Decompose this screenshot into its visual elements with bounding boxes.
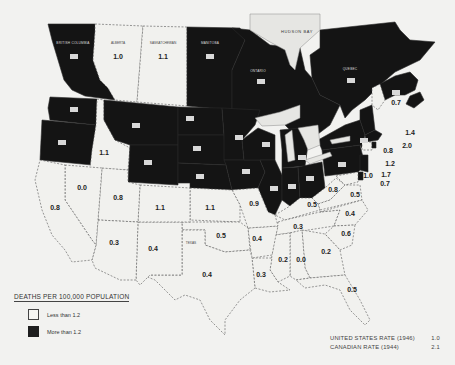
- label-saskatchewan-value: 1.1: [158, 53, 168, 60]
- label-maryland-value: 0.7: [380, 180, 390, 187]
- rate-value-canada: 2.1: [431, 344, 440, 350]
- label-bc-name: BRITISH COLUMBIA: [56, 41, 90, 45]
- badge-wisconsin: [262, 142, 270, 147]
- region-north-dakota[interactable]: [178, 107, 224, 135]
- national-rates: UNITED STATES RATE (1946) 1.0 CANADIAN R…: [330, 335, 440, 353]
- label-texas-value: 0.4: [202, 271, 212, 278]
- label-kansas-value: 1.1: [205, 204, 215, 211]
- badge-bc: [70, 54, 78, 59]
- badge-ontario: [257, 79, 265, 84]
- badge-north-dakota: [186, 116, 194, 121]
- label-florida-value: 0.5: [347, 286, 357, 293]
- label-texas-name: TEXAS: [186, 241, 196, 245]
- hudson-bay-label: HUDSON BAY: [281, 29, 313, 34]
- badge-iowa: [242, 169, 250, 174]
- label-arizona-value: 0.3: [109, 239, 119, 246]
- region-kansas[interactable]: [190, 188, 240, 222]
- badge-manitoba: [206, 54, 214, 59]
- label-missouri-value: 0.9: [249, 200, 259, 207]
- label-new-mexico-value: 0.4: [148, 245, 158, 252]
- label-dc-value: 1.0: [363, 172, 373, 179]
- badge-minnesota: [235, 135, 243, 140]
- region-pennsylvania[interactable]: [322, 145, 365, 176]
- badge-wyoming: [144, 160, 152, 165]
- label-west-virginia-value: 0.8: [328, 186, 338, 193]
- badge-michigan: [298, 155, 306, 160]
- label-tennessee-value: 0.3: [293, 223, 303, 230]
- label-idaho-value: 1.1: [99, 149, 109, 156]
- rate-value-us: 1.0: [431, 335, 440, 341]
- label-rhode-island-value: 2.0: [402, 142, 412, 149]
- label-colorado-value: 1.1: [155, 204, 165, 211]
- badge-illinois: [270, 186, 278, 191]
- badge-nebraska: [196, 174, 204, 179]
- label-quebec-name: QUEBEC: [343, 67, 358, 71]
- label-delaware-value: 1.7: [381, 171, 391, 178]
- label-mississippi-value: 0.2: [278, 256, 288, 263]
- rate-label-canada: CANADIAN RATE (1944): [330, 344, 399, 350]
- label-alberta-value: 1.0: [113, 53, 123, 60]
- legend-label-dark: More than 1.2: [47, 329, 81, 335]
- label-utah-value: 0.8: [113, 194, 123, 201]
- badge-washington: [70, 107, 78, 112]
- region-oregon[interactable]: [40, 120, 96, 165]
- label-california-value: 0.8: [50, 204, 60, 211]
- region-south-dakota[interactable]: [178, 135, 226, 165]
- region-florida[interactable]: [296, 275, 370, 325]
- label-north-carolina-value: 0.4: [345, 210, 355, 217]
- label-georgia-value: 0.2: [321, 248, 331, 255]
- region-montana[interactable]: [104, 100, 178, 145]
- label-saskatchewan-name: SASKATCHEWAN: [150, 41, 177, 45]
- legend-swatch-light: [28, 309, 39, 320]
- badge-montana: [132, 123, 140, 128]
- region-maritimes-island[interactable]: [406, 92, 424, 108]
- legend-title: DEATHS PER 100,000 POPULATION: [14, 293, 129, 302]
- label-massachusetts-value: 1.4: [405, 129, 415, 136]
- badge-pennsylvania: [338, 162, 346, 167]
- legend-swatch-dark: [28, 326, 39, 337]
- label-maine-value: 0.7: [391, 99, 401, 106]
- badge-new-york: [360, 138, 368, 143]
- badge-maritimes: [392, 90, 400, 95]
- label-oklahoma-value: 0.5: [216, 232, 226, 239]
- region-arizona[interactable]: [92, 220, 138, 280]
- badge-ohio: [306, 176, 314, 181]
- label-new-jersey-value: 1.2: [385, 160, 395, 167]
- region-nebraska[interactable]: [178, 163, 232, 190]
- region-saskatchewan[interactable]: [137, 26, 187, 106]
- label-south-carolina-value: 0.6: [341, 230, 351, 237]
- region-rhode-island[interactable]: [372, 142, 376, 148]
- label-connecticut-value: 0.8: [383, 147, 393, 154]
- label-arkansas-value: 0.4: [252, 235, 262, 242]
- label-nevada-value: 0.0: [77, 184, 87, 191]
- rate-row-us: UNITED STATES RATE (1946) 1.0: [330, 335, 440, 341]
- region-connecticut[interactable]: [362, 142, 372, 150]
- label-virginia-value: 0.5: [350, 191, 360, 198]
- badge-south-dakota: [193, 146, 201, 151]
- label-ontario-name: ONTARIO: [250, 69, 266, 73]
- rate-row-canada: CANADIAN RATE (1944) 2.1: [330, 344, 440, 350]
- badge-indiana: [288, 184, 296, 189]
- badge-quebec: [347, 78, 355, 83]
- label-louisiana-value: 0.3: [256, 271, 266, 278]
- region-new-jersey[interactable]: [360, 155, 368, 172]
- rate-label-us: UNITED STATES RATE (1946): [330, 335, 415, 341]
- legend-item-light: Less than 1.2: [28, 309, 134, 320]
- label-alberta-name: ALBERTA: [111, 41, 126, 45]
- badge-oregon: [58, 140, 66, 145]
- legend-label-light: Less than 1.2: [47, 312, 80, 318]
- label-kentucky-value: 0.5: [307, 201, 317, 208]
- legend-item-dark: More than 1.2: [28, 326, 134, 337]
- region-wyoming[interactable]: [128, 145, 178, 185]
- label-alabama-value: 0.0: [296, 256, 306, 263]
- legend: DEATHS PER 100,000 POPULATION Less than …: [14, 285, 134, 337]
- label-manitoba-name: MANITOBA: [201, 41, 220, 45]
